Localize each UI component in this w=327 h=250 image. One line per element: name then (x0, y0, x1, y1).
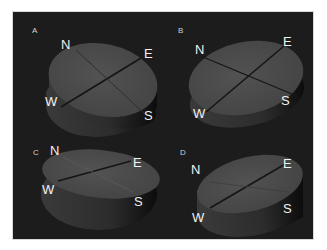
compass-disc-figure: A N E S W B N E S W C (12, 11, 314, 240)
panel-label-b: B (178, 26, 183, 35)
west-label: W (192, 210, 205, 225)
panel-d: D N E S W (180, 145, 309, 241)
east-label: E (283, 34, 292, 49)
panel-b: B N E S W (178, 26, 310, 137)
panel-a: A N E S W (32, 26, 164, 137)
south-label: S (134, 194, 143, 209)
east-label: E (283, 156, 292, 171)
south-label: S (144, 108, 153, 123)
panel-label-d: D (180, 148, 186, 157)
west-label: W (193, 106, 206, 121)
panel-c: C N E S W (33, 143, 162, 230)
east-label: E (144, 46, 153, 61)
north-label: N (195, 42, 204, 57)
west-label: W (42, 182, 55, 197)
figure-canvas: A N E S W B N E S W C (13, 12, 315, 241)
north-label: N (50, 143, 59, 158)
north-label: N (191, 162, 200, 177)
panel-label-c: C (33, 148, 39, 157)
panel-label-a: A (32, 26, 38, 35)
west-label: W (45, 94, 58, 109)
east-label: E (133, 155, 142, 170)
south-label: S (281, 93, 290, 108)
south-label: S (283, 201, 292, 216)
north-label: N (61, 37, 70, 52)
